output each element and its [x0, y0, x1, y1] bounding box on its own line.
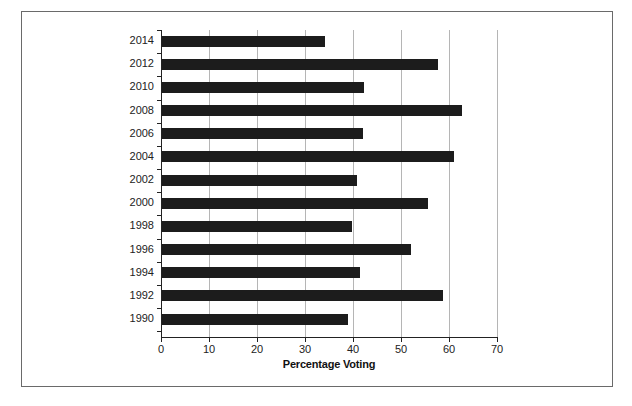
bar-1990: [162, 314, 348, 325]
bar-2008: [162, 105, 462, 116]
y-tick-label: 1996: [114, 243, 154, 255]
bar-1992: [162, 290, 443, 301]
bar-2000: [162, 198, 428, 209]
x-tick-label: 60: [434, 343, 464, 355]
y-tick-label: 2014: [114, 34, 154, 46]
bar-2002: [162, 175, 357, 186]
bar-1998: [162, 221, 352, 232]
x-tick-label: 10: [194, 343, 224, 355]
x-tick-label: 30: [290, 343, 320, 355]
y-tick-label: 2008: [114, 104, 154, 116]
y-tick-label: 2006: [114, 127, 154, 139]
y-tick-label: 2002: [114, 173, 154, 185]
y-tick-label: 2010: [114, 80, 154, 92]
x-axis: [161, 337, 498, 338]
y-tick-label: 1994: [114, 266, 154, 278]
bar-2012: [162, 59, 438, 70]
y-tick-label: 1992: [114, 289, 154, 301]
x-tick-label: 40: [338, 343, 368, 355]
y-axis: [161, 30, 162, 338]
gridline: [497, 30, 498, 337]
bar-1996: [162, 244, 411, 255]
x-axis-title: Percentage Voting: [279, 358, 379, 370]
y-tick-label: 2000: [114, 196, 154, 208]
gridline: [449, 30, 450, 337]
bar-1994: [162, 267, 360, 278]
x-tick-label: 50: [386, 343, 416, 355]
bar-2010: [162, 82, 364, 93]
x-tick-label: 20: [242, 343, 272, 355]
y-tick-label: 2012: [114, 57, 154, 69]
y-tick-label: 2004: [114, 150, 154, 162]
bar-2004: [162, 151, 454, 162]
x-tick-label: 70: [482, 343, 512, 355]
bar-2006: [162, 128, 363, 139]
y-tick-label: 1990: [114, 312, 154, 324]
x-tick-label: 0: [146, 343, 176, 355]
y-tick-label: 1998: [114, 219, 154, 231]
bar-2014: [162, 36, 325, 47]
